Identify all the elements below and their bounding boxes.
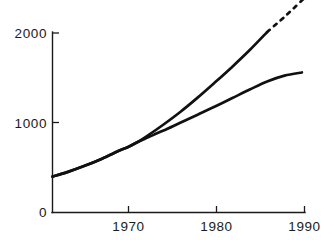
y-tick-label-0: 0 [39,205,47,220]
y-tick-label-1000: 1000 [15,116,47,131]
x-tick-label-1980: 1980 [200,219,232,234]
x-tick-label-1970: 1970 [112,219,144,234]
y-tick-label-2000: 2000 [15,26,47,41]
chart-figure: 2000 1000 0 1970 1980 1990 [0,0,332,240]
series-line-upper [53,32,268,177]
series-line-lower [53,72,302,176]
line-chart-plot: 2000 1000 0 1970 1980 1990 [0,0,332,240]
x-tick-label-1990: 1990 [288,219,320,234]
series-line-upper-projection [267,0,304,32]
